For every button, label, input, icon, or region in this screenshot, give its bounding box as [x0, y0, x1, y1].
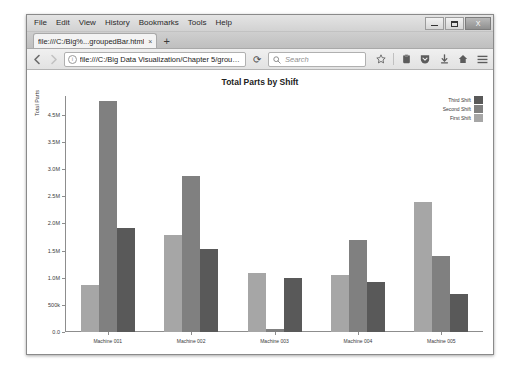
tab-close-icon[interactable]: ×	[148, 38, 152, 45]
pocket-shield-icon[interactable]	[418, 52, 432, 66]
close-button[interactable]: X	[465, 17, 491, 30]
y-axis-tick-label: 1.5M	[48, 248, 60, 254]
menu-item-file[interactable]: File	[33, 17, 48, 29]
bar[interactable]	[450, 294, 468, 332]
x-axis-tick-mark	[358, 332, 359, 335]
bar[interactable]	[117, 228, 135, 332]
menu-hamburger-icon[interactable]	[475, 52, 489, 66]
x-axis-tick-label: Machine 002	[149, 338, 232, 344]
x-axis-tick-mark	[275, 332, 276, 335]
toolbar-divider	[393, 53, 394, 65]
legend-swatch	[474, 105, 483, 113]
screenshot-root: File Edit View History Bookmarks Tools H…	[0, 0, 511, 370]
y-axis-tick-mark	[62, 115, 65, 116]
y-axis-title: Total Parts	[34, 90, 40, 116]
navigation-toolbar: i file:///C:/Big Data Visualization/Chap…	[27, 49, 493, 70]
minimize-button[interactable]	[425, 17, 444, 30]
y-axis-tick-mark	[62, 223, 65, 224]
search-icon	[273, 50, 281, 68]
site-identity-icon[interactable]: i	[68, 55, 77, 64]
y-axis-tick-mark	[62, 251, 65, 252]
window-controls: X	[425, 15, 491, 32]
url-bar[interactable]: i file:///C:/Big Data Visualization/Chap…	[64, 52, 246, 67]
bar[interactable]	[164, 235, 182, 332]
home-icon[interactable]	[456, 52, 470, 66]
reader-mode-icon[interactable]	[399, 52, 413, 66]
menu-bar: File Edit View History Bookmarks Tools H…	[33, 17, 233, 29]
toolbar-icons	[370, 52, 489, 66]
menu-item-edit[interactable]: Edit	[55, 17, 71, 29]
bar-group: Machine 001	[66, 96, 149, 332]
title-bar: File Edit View History Bookmarks Tools H…	[27, 15, 493, 32]
back-arrow-icon[interactable]	[31, 52, 43, 66]
y-axis-tick-mark	[62, 169, 65, 170]
legend-swatch	[474, 114, 483, 122]
x-axis-tick-label: Machine 001	[66, 338, 149, 344]
x-axis-tick-mark	[191, 332, 192, 335]
tab-groupedbar[interactable]: file:///C:/Big%...groupedBar.html ×	[33, 33, 157, 48]
menu-item-help[interactable]: Help	[214, 17, 232, 29]
legend-swatch	[474, 96, 483, 104]
bar-groups: Machine 001Machine 002Machine 003Machine…	[66, 96, 483, 332]
tab-title: file:///C:/Big%...groupedBar.html	[38, 37, 144, 46]
bar[interactable]	[414, 202, 432, 332]
x-axis-tick-label: Machine 003	[233, 338, 316, 344]
bar-group: Machine 004	[316, 96, 399, 332]
y-axis-tick-mark	[62, 305, 65, 306]
y-axis-tick-label: 2.0M	[48, 220, 60, 226]
legend-label: Third Shift	[448, 97, 471, 103]
url-input[interactable]: file:///C:/Big Data Visualization/Chapte…	[80, 55, 242, 64]
page-content: Total Parts by Shift Total Parts 0.0500k…	[27, 70, 493, 354]
bar[interactable]	[349, 240, 367, 332]
chart-legend: Third ShiftSecond ShiftFirst Shift	[443, 96, 483, 122]
bar[interactable]	[367, 282, 385, 332]
legend-item: First Shift	[450, 114, 483, 122]
downloads-icon[interactable]	[437, 52, 451, 66]
y-axis-tick-label: 1.0M	[48, 275, 60, 281]
search-bar[interactable]: Search	[268, 52, 366, 67]
x-axis-tick-mark	[108, 332, 109, 335]
bar[interactable]	[99, 101, 117, 332]
forward-arrow-icon[interactable]	[47, 52, 59, 66]
x-axis-tick-label: Machine 005	[400, 338, 483, 344]
bar-group: Machine 003	[233, 96, 316, 332]
bar[interactable]	[200, 249, 218, 332]
menu-item-view[interactable]: View	[78, 17, 97, 29]
bar[interactable]	[284, 278, 302, 332]
bar[interactable]	[182, 176, 200, 332]
y-axis-tick-mark	[62, 196, 65, 197]
reload-button[interactable]: ⟳	[250, 52, 264, 66]
menu-item-history[interactable]: History	[104, 17, 131, 29]
bar[interactable]	[248, 273, 266, 332]
y-axis-tick-label: 3.5M	[48, 139, 60, 145]
maximize-button[interactable]	[445, 17, 464, 30]
legend-item: Third Shift	[448, 96, 483, 104]
legend-label: Second Shift	[443, 106, 471, 112]
menu-item-bookmarks[interactable]: Bookmarks	[138, 17, 180, 29]
y-axis-tick-label: 4.5M	[48, 112, 60, 118]
y-axis-tick-label: 3.0M	[48, 166, 60, 172]
browser-window: File Edit View History Bookmarks Tools H…	[26, 14, 494, 355]
y-axis-tick-label: 0.0	[52, 329, 60, 335]
y-axis-tick-mark	[62, 278, 65, 279]
y-axis-tick-label: 500k	[48, 302, 60, 308]
bar[interactable]	[432, 256, 450, 332]
menu-item-tools[interactable]: Tools	[187, 17, 208, 29]
y-axis-tick-mark	[62, 332, 65, 333]
bar[interactable]	[331, 275, 349, 332]
legend-label: First Shift	[450, 115, 471, 121]
chart-title: Total Parts by Shift	[27, 77, 493, 87]
y-axis-title-holder: Total Parts	[34, 72, 42, 142]
legend-item: Second Shift	[443, 105, 483, 113]
new-tab-button[interactable]: +	[157, 35, 175, 47]
tab-strip: file:///C:/Big%...groupedBar.html × +	[27, 32, 493, 49]
search-input[interactable]: Search	[285, 55, 309, 64]
y-axis-tick-mark	[62, 142, 65, 143]
bookmark-star-icon[interactable]	[374, 52, 388, 66]
x-axis-tick-label: Machine 004	[316, 338, 399, 344]
bar-group: Machine 005	[400, 96, 483, 332]
bar-group: Machine 002	[149, 96, 232, 332]
bar[interactable]	[81, 285, 99, 332]
y-axis-tick-label: 2.5M	[48, 193, 60, 199]
x-axis-tick-mark	[441, 332, 442, 335]
